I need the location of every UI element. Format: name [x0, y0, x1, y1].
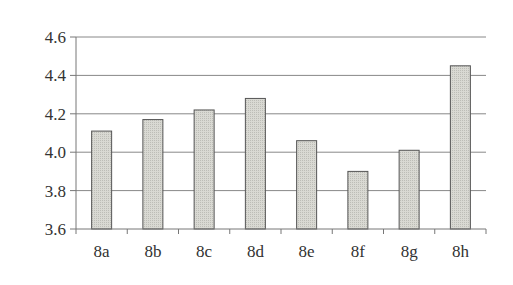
y-tick-label: 4.6 [45, 28, 66, 47]
bar-8c [194, 110, 214, 229]
bar-8f [348, 171, 368, 229]
y-tick-label: 4.2 [45, 105, 66, 124]
y-tick-label: 3.8 [45, 182, 66, 201]
x-tick-label: 8c [196, 242, 213, 261]
bars [92, 66, 471, 229]
x-axis-labels: 8a8b8c8d8e8f8g8h [94, 242, 470, 261]
y-tick-label: 3.6 [45, 220, 66, 239]
x-tick-label: 8b [144, 242, 161, 261]
x-tick-label: 8d [247, 242, 265, 261]
axes [70, 37, 486, 234]
bar-8b [143, 120, 163, 229]
bar-chart: 3.63.84.04.24.44.6 8a8b8c8d8e8f8g8h [0, 0, 513, 285]
bar-8d [245, 98, 265, 229]
y-tick-label: 4.0 [45, 143, 66, 162]
bar-8g [399, 150, 419, 229]
x-tick-label: 8g [401, 242, 419, 261]
y-tick-label: 4.4 [45, 66, 67, 85]
x-tick-label: 8h [452, 242, 470, 261]
gridlines [76, 37, 486, 191]
bar-8e [297, 141, 317, 229]
bar-8a [92, 131, 112, 229]
x-tick-label: 8a [94, 242, 111, 261]
x-tick-label: 8e [299, 242, 315, 261]
x-tick-label: 8f [351, 242, 366, 261]
bar-8h [450, 66, 470, 229]
y-axis-labels: 3.63.84.04.24.44.6 [45, 28, 67, 239]
